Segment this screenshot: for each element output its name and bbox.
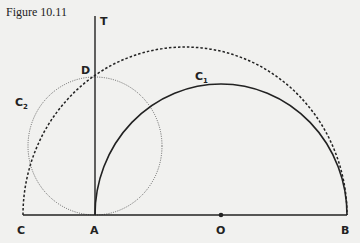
point-o	[219, 213, 224, 218]
label-c: C	[17, 224, 25, 237]
label-a: A	[90, 224, 99, 237]
label-d: D	[81, 64, 90, 77]
label-c2-main: C	[15, 96, 23, 109]
geometry-diagram: T D C1 C2 C A O B	[0, 0, 360, 243]
circle-c1	[95, 84, 347, 215]
label-c1-sub: 1	[203, 77, 208, 85]
label-c1: C1	[195, 70, 208, 85]
label-b: B	[341, 224, 349, 237]
dashed-arc	[23, 47, 347, 215]
label-c2-sub: 2	[23, 103, 28, 111]
label-c1-main: C	[195, 70, 203, 83]
label-c2: C2	[15, 96, 28, 111]
label-t: T	[100, 15, 108, 28]
label-o: O	[216, 224, 225, 237]
